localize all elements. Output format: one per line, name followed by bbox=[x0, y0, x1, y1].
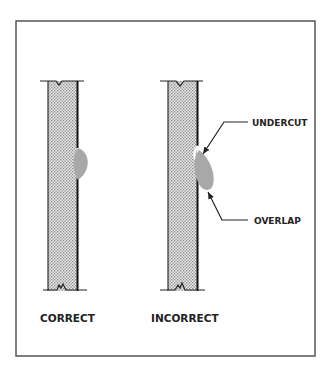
plate-section-correct bbox=[40, 81, 87, 291]
panel-correct: CORRECT bbox=[40, 81, 96, 324]
caption-incorrect: INCORRECT bbox=[151, 312, 219, 324]
label-undercut: UNDERCUT bbox=[252, 118, 308, 128]
caption-correct: CORRECT bbox=[40, 312, 96, 324]
weld-defect-diagram: CORRECT UNDERCUT OVERLAP INCORRECT bbox=[0, 0, 327, 371]
label-overlap: OVERLAP bbox=[254, 216, 301, 226]
callout-undercut: UNDERCUT bbox=[203, 118, 308, 154]
panel-incorrect: UNDERCUT OVERLAP INCORRECT bbox=[151, 81, 308, 324]
plate-section-incorrect bbox=[160, 81, 205, 291]
callout-overlap: OVERLAP bbox=[208, 192, 301, 226]
